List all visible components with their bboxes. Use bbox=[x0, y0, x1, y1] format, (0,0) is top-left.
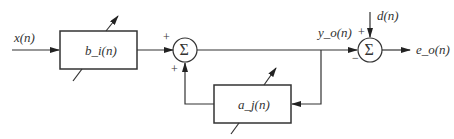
summer1-plus-top: + bbox=[163, 30, 170, 44]
desired-label: d(n) bbox=[377, 8, 399, 23]
error-label: e_o(n) bbox=[416, 42, 450, 57]
diagram: x(n) b_i(n) a_j(n) Σ Σ + + + − y_o(n) d(… bbox=[0, 0, 454, 139]
feedback-path bbox=[292, 50, 321, 104]
adapt-tail-b bbox=[73, 69, 82, 81]
summer2-minus: − bbox=[352, 51, 359, 65]
feedback-to-sum1-arrow bbox=[185, 63, 214, 104]
summer2-sigma: Σ bbox=[365, 41, 374, 58]
output-label: y_o(n) bbox=[316, 25, 352, 40]
forward-block-label: b_i(n) bbox=[85, 43, 117, 58]
summer1-plus-bottom: + bbox=[171, 62, 178, 76]
block-diagram-svg: x(n) b_i(n) a_j(n) Σ Σ + + + − y_o(n) d(… bbox=[0, 0, 454, 139]
input-label: x(n) bbox=[13, 30, 35, 45]
adapt-arrow-b bbox=[106, 16, 118, 31]
adapt-tail-a bbox=[231, 123, 239, 134]
adapt-arrow-a bbox=[264, 68, 276, 85]
summer1-sigma: Σ bbox=[180, 41, 189, 58]
feedback-block-label: a_j(n) bbox=[238, 97, 270, 112]
summer2-plus: + bbox=[358, 25, 365, 39]
